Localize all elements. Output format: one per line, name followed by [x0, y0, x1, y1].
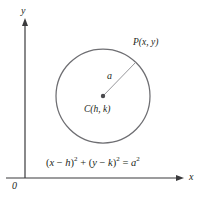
circle-equation: (x − h)2 + (y − k)2 = a2 [46, 155, 140, 168]
eq-exponent-3: 2 [136, 155, 140, 163]
y-axis-arrowhead-icon [22, 18, 28, 26]
x-axis-label: x [189, 172, 193, 182]
radius-label: a [107, 71, 112, 81]
x-axis [6, 175, 184, 181]
circle-equation-figure: y x 0 P(x, y) C(h, k) a (x − h)2 + (y − … [0, 0, 201, 202]
origin-label: 0 [12, 181, 17, 191]
eq-equals: = [120, 157, 131, 168]
eq-minus-1: − [54, 157, 65, 168]
figure-canvas [0, 0, 201, 202]
eq-plus: + [78, 157, 89, 168]
eq-minus-2: − [97, 157, 108, 168]
center-point-marker [101, 94, 105, 98]
y-axis [22, 18, 28, 178]
point-p-label: P(x, y) [133, 38, 158, 48]
x-axis-arrowhead-icon [176, 175, 184, 181]
center-label: C(h, k) [84, 105, 110, 115]
y-axis-label: y [21, 6, 25, 16]
